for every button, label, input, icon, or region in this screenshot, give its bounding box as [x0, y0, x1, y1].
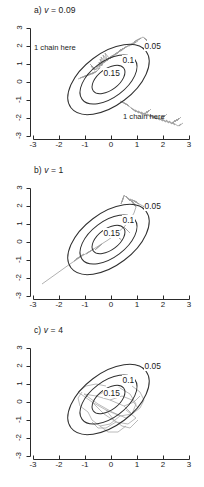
x-tick-0: 0 — [103, 140, 119, 149]
panel-b-plot — [0, 160, 204, 320]
x-tick-neg1: -1 — [77, 460, 93, 469]
x-tick-3: 3 — [181, 140, 197, 149]
x-tick-1: 1 — [129, 300, 145, 309]
panel-a-contour-label-015: 0.15 — [103, 68, 120, 78]
x-tick-0: 0 — [103, 300, 119, 309]
x-tick-neg3: -3 — [25, 140, 41, 149]
x-tick-0: 0 — [103, 460, 119, 469]
panel-c-contour-label-01: 0.1 — [122, 375, 135, 385]
x-tick-neg3: -3 — [25, 300, 41, 309]
panel-b-chain-traces — [42, 195, 148, 284]
y-tick-neg1: -1 — [15, 416, 24, 423]
panel-a-contour-label-005: 0.05 — [144, 41, 161, 51]
y-tick-neg3: -3 — [15, 452, 24, 459]
panel-a-x-axis — [34, 136, 190, 140]
panel-c-x-axis — [34, 456, 190, 460]
y-tick-0: 0 — [14, 239, 23, 243]
y-tick-1: 1 — [14, 221, 23, 225]
panel-a-plot — [0, 0, 204, 160]
y-tick-3: 3 — [14, 25, 23, 29]
x-tick-neg2: -2 — [51, 300, 67, 309]
y-tick-0: 0 — [14, 399, 23, 403]
contour-0.15 — [87, 60, 130, 100]
y-tick-0: 0 — [14, 79, 23, 83]
y-tick-2: 2 — [14, 43, 23, 47]
panel-b-contour-label-005: 0.05 — [144, 201, 161, 211]
panel-b: b) v = 1 — [0, 160, 204, 320]
y-tick-3: 3 — [14, 185, 23, 189]
x-tick-2: 2 — [155, 300, 171, 309]
panel-b-contour-label-015: 0.15 — [103, 228, 120, 238]
y-tick-neg2: -2 — [15, 434, 24, 441]
y-tick-neg1: -1 — [15, 256, 24, 263]
panel-a-annotation-lower: 1 chain here — [123, 112, 165, 121]
panel-b-y-tick-labels: 3 2 1 0 -1 -2 -3 — [12, 187, 26, 295]
y-tick-2: 2 — [14, 203, 23, 207]
x-tick-neg3: -3 — [25, 460, 41, 469]
panel-b-y-axis — [27, 189, 31, 297]
x-tick-neg2: -2 — [51, 460, 67, 469]
x-tick-1: 1 — [129, 140, 145, 149]
panel-c-y-tick-labels: 3 2 1 0 -1 -2 -3 — [12, 347, 26, 455]
panel-a-contour-label-01: 0.1 — [122, 55, 135, 65]
x-tick-2: 2 — [155, 460, 171, 469]
x-tick-neg2: -2 — [51, 140, 67, 149]
panel-c-plot — [0, 320, 204, 480]
panel-a: a) v = 0.09 — [0, 0, 204, 160]
y-tick-neg2: -2 — [15, 274, 24, 281]
x-tick-3: 3 — [181, 300, 197, 309]
panel-c-contour-label-015: 0.15 — [103, 388, 120, 398]
y-tick-neg3: -3 — [15, 292, 24, 299]
x-tick-neg1: -1 — [77, 300, 93, 309]
y-tick-3: 3 — [14, 345, 23, 349]
panel-b-x-tick-labels: -3 -2 -1 0 1 2 3 — [0, 300, 204, 314]
panel-a-y-axis — [27, 29, 31, 137]
panel-c-y-axis — [27, 349, 31, 457]
panel-b-contour-label-01: 0.1 — [122, 215, 135, 225]
y-tick-neg3: -3 — [15, 132, 24, 139]
x-tick-3: 3 — [181, 460, 197, 469]
x-tick-1: 1 — [129, 460, 145, 469]
panel-a-annotation-upper: 1 chain here — [34, 43, 76, 52]
y-tick-neg2: -2 — [15, 114, 24, 121]
panel-c: c) v = 4 — [0, 320, 204, 480]
y-tick-2: 2 — [14, 363, 23, 367]
panel-a-y-tick-labels: 3 2 1 0 -1 -2 -3 — [12, 27, 26, 135]
panel-a-x-tick-labels: -3 -2 -1 0 1 2 3 — [0, 140, 204, 154]
x-tick-neg1: -1 — [77, 140, 93, 149]
y-tick-neg1: -1 — [15, 96, 24, 103]
y-tick-1: 1 — [14, 61, 23, 65]
panel-b-x-axis — [34, 296, 190, 300]
figure-mcmc-contour-panels: a) v = 0.09 — [0, 0, 204, 487]
panel-c-contour-label-005: 0.05 — [144, 361, 161, 371]
panel-c-x-tick-labels: -3 -2 -1 0 1 2 3 — [0, 460, 204, 474]
y-tick-1: 1 — [14, 381, 23, 385]
x-tick-2: 2 — [155, 140, 171, 149]
